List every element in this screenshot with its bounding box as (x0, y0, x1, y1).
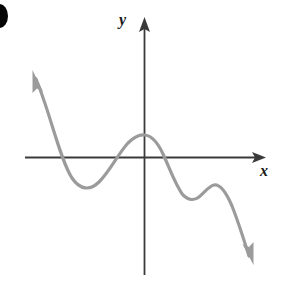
y-axis-group (139, 17, 150, 275)
curve-left-arrowhead-icon (33, 70, 44, 93)
y-axis-label: y (119, 12, 126, 28)
x-axis-label: x (260, 163, 268, 179)
polynomial-curve-path (36, 79, 249, 256)
curve-group (33, 70, 254, 265)
graph-figure: y x (0, 0, 287, 288)
graph-canvas (0, 0, 287, 288)
curve-right-arrowhead-icon (243, 242, 254, 265)
